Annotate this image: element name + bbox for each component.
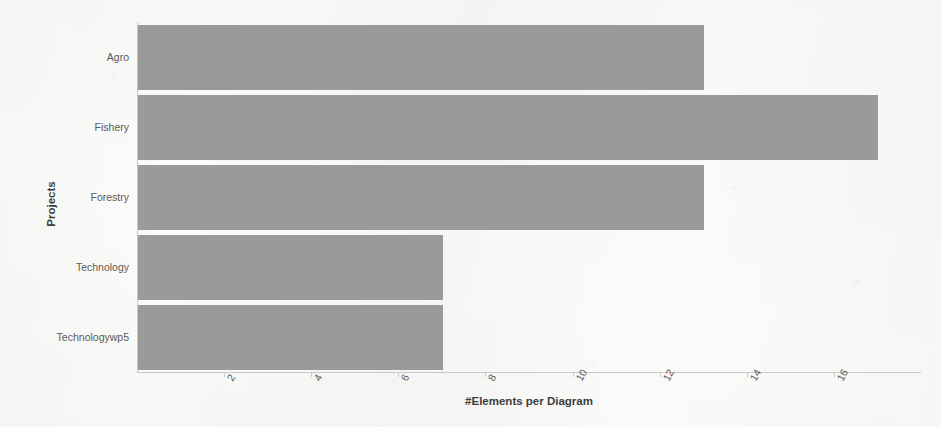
x-tick-label-14: 14 (747, 377, 757, 383)
y-axis-title: Projects (45, 181, 57, 226)
x-tick-label-6: 6 (398, 377, 408, 383)
y-tick-label-forestry: Forestry (90, 191, 129, 203)
x-tick-label-2: 2 (224, 377, 234, 383)
bar-fishery[interactable] (138, 95, 878, 160)
bar-technologywp5[interactable] (138, 305, 443, 370)
x-tick-label-12: 12 (660, 377, 670, 383)
y-tick-label-agro: Agro (107, 51, 129, 63)
bar-technology[interactable] (138, 235, 443, 300)
x-tick-label-10: 10 (573, 377, 583, 383)
x-tick-label-8: 8 (485, 377, 495, 383)
y-tick-label-technologywp5: Technologywp5 (57, 331, 129, 343)
bar-forestry[interactable] (138, 165, 704, 230)
y-tick-label-technology: Technology (76, 261, 129, 273)
x-axis-title: #Elements per Diagram (137, 395, 921, 407)
bar-chart: AgroFisheryForestryTechnologyTechnologyw… (0, 0, 941, 427)
y-tick-label-fishery: Fishery (95, 121, 129, 133)
chart-screenshot: AgroFisheryForestryTechnologyTechnologyw… (0, 0, 941, 427)
x-axis-line (137, 372, 921, 373)
x-tick-label-16: 16 (834, 377, 844, 383)
x-tick-label-4: 4 (311, 377, 321, 383)
bar-agro[interactable] (138, 25, 704, 90)
